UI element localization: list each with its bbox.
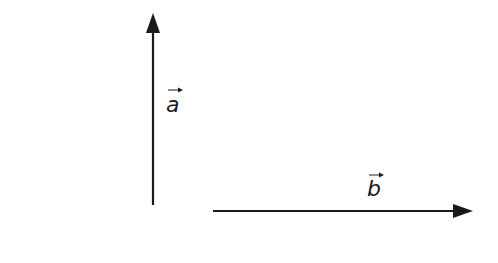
vector-diagram: [0, 0, 498, 263]
vector-b-label: b: [367, 178, 381, 200]
vector-b-arrow: [213, 204, 473, 218]
vector-a-label: a: [166, 94, 179, 116]
vector-a-arrow: [146, 13, 160, 205]
